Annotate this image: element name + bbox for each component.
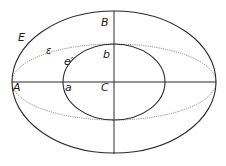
label-C: C	[101, 81, 109, 94]
label-E: E	[18, 31, 25, 44]
label-A: A	[12, 81, 21, 94]
label-a: a	[65, 81, 72, 94]
label-epsilon: ε	[46, 45, 52, 56]
label-b: b	[103, 48, 110, 61]
label-e-prime: e′	[64, 55, 74, 68]
label-B: B	[101, 16, 109, 29]
ellipse-diagram: E ε B b e′ A a C	[0, 0, 226, 166]
